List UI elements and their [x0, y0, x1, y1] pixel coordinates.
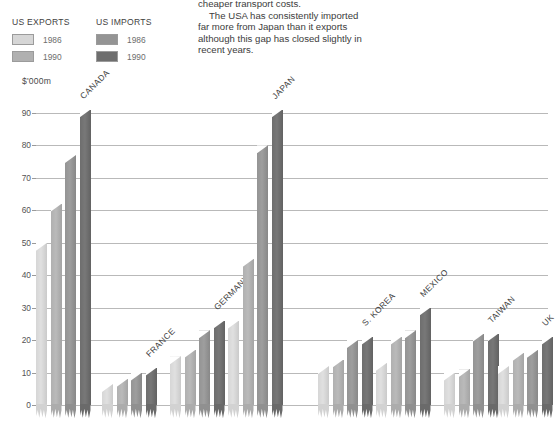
bar-torn-edge	[243, 404, 254, 419]
bar-group: TAIWAN	[444, 103, 499, 405]
legend-swatch-imports-1990	[96, 51, 118, 62]
bar-torn-edge	[117, 404, 128, 419]
y-axis-tick-label: 40	[22, 270, 31, 280]
bar-torn-edge	[376, 404, 387, 419]
bar-torn-edge	[420, 404, 431, 419]
bar-torn-edge	[333, 404, 344, 419]
y-axis-tickmark	[32, 405, 36, 406]
bar-torn-edge	[228, 404, 239, 419]
legend-group-exports: US EXPORTS 1986 1990	[12, 17, 70, 66]
bar-torn-edge	[36, 404, 47, 419]
bar-face	[243, 259, 254, 405]
bar-torn-edge	[362, 404, 373, 419]
y-axis-tick-label: 50	[22, 238, 31, 248]
y-axis-tick-label: 30	[22, 303, 31, 313]
bar	[185, 350, 196, 405]
legend-title-exports: US EXPORTS	[12, 17, 70, 27]
bar-torn-edge	[527, 404, 538, 419]
bar-torn-edge	[214, 404, 225, 419]
bar-face	[65, 155, 76, 405]
legend-group-imports: US IMPORTS 1986 1990	[96, 17, 152, 66]
bar-group: MEXICO	[376, 103, 431, 405]
legend-swatch-imports-1986	[96, 34, 118, 45]
bar-torn-edge	[102, 404, 113, 419]
bar	[257, 145, 268, 405]
bar-face	[488, 334, 499, 405]
bar	[102, 384, 113, 405]
bar-torn-edge	[131, 404, 142, 419]
bar-torn-edge	[347, 404, 358, 419]
bar-torn-edge	[498, 404, 509, 419]
y-axis-tick-label: 20	[22, 335, 31, 345]
bar-group: S. KOREA	[318, 103, 373, 405]
bar	[51, 204, 62, 405]
bar-torn-edge	[185, 404, 196, 419]
bar	[199, 330, 210, 405]
bar-torn-edge	[146, 404, 157, 419]
legend-label-exports-1990: 1990	[43, 52, 62, 62]
bar-group: CANADA	[36, 103, 91, 405]
bar-torn-edge	[488, 404, 499, 419]
intro-paragraph: cheaper transport costs. The USA has con…	[198, 0, 388, 56]
chart-page: cheaper transport costs. The USA has con…	[0, 0, 555, 437]
bar-face	[473, 334, 484, 405]
bar-face	[214, 321, 225, 405]
intro-line-2: far more from Japan than it exports	[198, 21, 388, 33]
intro-line-0: cheaper transport costs.	[198, 0, 388, 10]
bar	[444, 373, 455, 405]
bar-face	[527, 350, 538, 405]
legend-label-exports-1986: 1986	[43, 35, 62, 45]
bar-torn-edge	[272, 404, 283, 419]
bar-face	[80, 110, 91, 406]
bar-group: JAPAN	[228, 103, 283, 405]
bar	[131, 373, 142, 405]
bar	[513, 353, 524, 405]
bar-face	[51, 204, 62, 405]
bar-torn-edge	[170, 404, 181, 419]
bar	[65, 155, 76, 405]
category-label: CANADA	[77, 67, 110, 100]
intro-line-4: recent years.	[198, 44, 388, 56]
bar-face	[185, 350, 196, 405]
bar-face	[228, 321, 239, 405]
bar	[228, 321, 239, 405]
y-axis-tick-label: 60	[22, 205, 31, 215]
bar	[333, 360, 344, 405]
bar-face	[405, 330, 416, 405]
bar	[80, 110, 91, 406]
bar-face	[199, 330, 210, 405]
legend-label-imports-1986: 1986	[127, 35, 146, 45]
bar	[170, 356, 181, 405]
bar-torn-edge	[65, 404, 76, 419]
bar	[405, 330, 416, 405]
bar	[542, 337, 553, 405]
legend-swatch-exports-1990	[12, 51, 34, 62]
legend-item-imports-1986: 1986	[96, 32, 152, 47]
y-axis-unit-label: $'000m	[22, 76, 51, 86]
y-axis-tick-label: 70	[22, 173, 31, 183]
bar-face	[36, 243, 47, 405]
bar-torn-edge	[391, 404, 402, 419]
legend-swatch-exports-1986	[12, 34, 34, 45]
intro-line-3: although this gap has closed slightly in	[198, 33, 388, 45]
bar-face	[362, 337, 373, 405]
bar	[243, 259, 254, 405]
bar-face	[513, 353, 524, 405]
bar-face	[542, 337, 553, 405]
legend-item-exports-1990: 1990	[12, 49, 70, 64]
bar	[527, 350, 538, 405]
bar	[391, 337, 402, 405]
bar-torn-edge	[513, 404, 524, 419]
bar-torn-edge	[199, 404, 210, 419]
bar-torn-edge	[473, 404, 484, 419]
plot-area: 0102030405060708090CANADAFRANCEGERMANYJA…	[36, 103, 548, 405]
bar	[376, 363, 387, 405]
bar	[362, 337, 373, 405]
bar-face	[170, 356, 181, 405]
legend-label-imports-1990: 1990	[127, 52, 146, 62]
bar-face	[420, 308, 431, 405]
y-axis-tick-label: 80	[22, 140, 31, 150]
bar-torn-edge	[318, 404, 329, 419]
bar-torn-edge	[257, 404, 268, 419]
bar	[473, 334, 484, 405]
